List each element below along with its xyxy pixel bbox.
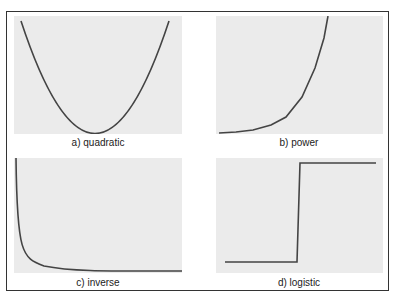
caption-quadratic: a) quadratic — [13, 137, 183, 148]
panel-logistic — [216, 158, 383, 273]
panel-inverse — [14, 158, 182, 273]
quadratic-curve — [14, 16, 182, 134]
caption-logistic: d) logistic — [214, 277, 384, 288]
panel-quadratic — [14, 16, 182, 134]
logistic-curve — [216, 158, 383, 273]
caption-power: b) power — [214, 137, 384, 148]
caption-inverse: c) inverse — [13, 277, 183, 288]
inverse-curve — [14, 158, 182, 273]
power-curve — [216, 16, 383, 134]
panel-power — [216, 16, 383, 134]
